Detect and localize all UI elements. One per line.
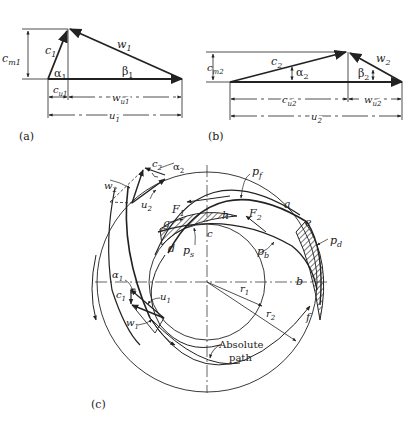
label-ps: ps (183, 244, 194, 259)
panel-b-labels: cm2 c2 α2 w2 β2 cu2 wu2 u2 (b) (207, 52, 391, 143)
label-pf: pf (252, 165, 264, 180)
caption-a: (a) (19, 130, 34, 143)
label-alpha1: α1 (54, 67, 67, 82)
label-absolute-path-2: path (229, 352, 252, 363)
label-beta1: β1 (122, 65, 133, 80)
label-w1: w1 (117, 38, 132, 53)
panel-c-impeller (92, 163, 330, 393)
label-wu2: wu2 (364, 94, 382, 108)
label-F1: F1 (171, 203, 185, 218)
caption-c: (c) (91, 398, 106, 411)
label-r1: r1 (240, 283, 249, 297)
panel-b-outlet-triangle (206, 52, 402, 120)
label-c1: c1 (116, 289, 126, 303)
label-cm2: cm2 (207, 62, 224, 76)
label-F2: F2 (248, 207, 262, 222)
figure-stage: cm1 c1 α1 w1 β1 cu1 wu1 u1 (a) cm2 c2 α2 (0, 0, 420, 431)
label-u1: u1 (109, 110, 120, 124)
label-alpha1: α1 (112, 269, 123, 283)
label-w2: w2 (376, 52, 391, 67)
velocity-diagram: cm1 c1 α1 w1 β1 cu1 wu1 u1 (a) cm2 c2 α2 (0, 0, 420, 431)
label-d: d (168, 242, 175, 255)
label-u1: u1 (160, 291, 171, 305)
label-c: c (207, 228, 213, 239)
label-cm1: cm1 (2, 52, 21, 67)
label-cu1: cu1 (53, 84, 68, 98)
caption-b: (b) (208, 130, 224, 143)
label-c2: c2 (152, 158, 163, 172)
label-u2: u2 (311, 111, 322, 125)
label-pd: pd (330, 234, 342, 249)
label-cu2: cu2 (282, 94, 297, 108)
label-e: e (305, 216, 312, 229)
label-r2: r2 (266, 308, 276, 322)
label-g: g (163, 217, 170, 230)
label-a: a (284, 198, 291, 211)
label-w2: w2 (104, 180, 118, 194)
label-alpha2: α2 (296, 66, 309, 81)
label-c2: c2 (271, 55, 282, 70)
label-b: b (296, 275, 303, 288)
panel-c-labels: c2 α2 w2 u2 F1 F2 pf h a e pd pb g c d p… (91, 158, 342, 411)
label-u2: u2 (141, 199, 152, 213)
label-beta2: β2 (358, 67, 369, 82)
label-wu1: wu1 (112, 92, 130, 106)
label-c1: c1 (45, 44, 56, 59)
label-alpha2: α2 (173, 161, 184, 175)
label-absolute-path-1: Absolute (218, 339, 263, 350)
panel-a-inlet-triangle (22, 29, 182, 118)
label-h: h (222, 209, 229, 222)
label-pb: pb (257, 245, 269, 260)
